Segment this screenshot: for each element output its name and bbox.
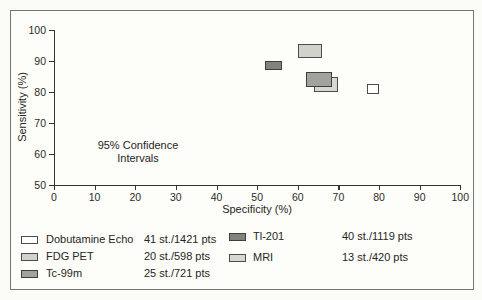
x-tick-label-40: 40: [211, 191, 223, 203]
legend-count-dobutamine-echo: 41 st./1421 pts: [144, 233, 216, 245]
legend-label-dobutamine-echo: Dobutamine Echo: [46, 233, 133, 245]
legend-label-tl-201: Tl-201: [253, 230, 284, 242]
plot-box-tl-201: [265, 61, 281, 70]
x-tick-label-20: 20: [129, 191, 141, 203]
y-axis-title: Sensitivity (%): [16, 72, 28, 142]
y-tick-100: [49, 30, 54, 31]
x-tick-label-50: 50: [251, 191, 263, 203]
legend-swatch-fdg-pet: [21, 253, 38, 261]
y-axis: [54, 30, 55, 186]
ci-annotation: 95% Confidence Intervals: [98, 139, 179, 165]
x-tick-label-90: 90: [414, 191, 426, 203]
legend-swatch-tl-201: [229, 233, 246, 241]
x-tick-100: [460, 185, 461, 190]
legend-swatch-dobutamine-echo: [21, 236, 38, 244]
y-tick-label-80: 80: [34, 86, 46, 98]
x-tick-label-80: 80: [373, 191, 385, 203]
legend-count-fdg-pet: 20 st./598 pts: [144, 250, 210, 262]
legend-swatch-mri: [229, 254, 246, 262]
figure-frame: 01020304050607080901005060708090100 95% …: [10, 10, 474, 290]
y-tick-50: [49, 185, 54, 186]
x-tick-80: [379, 185, 380, 190]
x-tick-70: [338, 185, 339, 190]
ci-annotation-line2: Intervals: [98, 152, 179, 165]
legend-label-mri: MRI: [253, 251, 273, 263]
legend-label-tc-99m: Tc-99m: [46, 267, 82, 279]
x-tick-label-0: 0: [51, 191, 57, 203]
y-tick-70: [49, 123, 54, 124]
x-tick-label-60: 60: [292, 191, 304, 203]
x-tick-60: [298, 185, 299, 190]
y-tick-label-100: 100: [28, 24, 46, 36]
plot-box-dobutamine-echo: [367, 84, 379, 94]
y-tick-90: [49, 61, 54, 62]
legend-label-fdg-pet: FDG PET: [46, 250, 94, 262]
plot-box-fdg-pet: [298, 44, 322, 58]
ci-annotation-line1: 95% Confidence: [98, 139, 179, 152]
x-tick-20: [135, 185, 136, 190]
y-tick-label-60: 60: [34, 148, 46, 160]
x-tick-label-30: 30: [170, 191, 182, 203]
y-tick-label-70: 70: [34, 117, 46, 129]
legend-swatch-tc-99m: [21, 270, 38, 278]
x-axis-title: Specificity (%): [222, 203, 292, 215]
y-tick-80: [49, 92, 54, 93]
y-tick-label-90: 90: [34, 55, 46, 67]
legend-count-mri: 13 st./420 pts: [342, 251, 408, 263]
x-tick-label-70: 70: [333, 191, 345, 203]
legend-count-tl-201: 40 st./1119 pts: [342, 230, 413, 242]
x-tick-40: [217, 185, 218, 190]
plot-box-tc-99m: [306, 72, 332, 88]
x-tick-10: [95, 185, 96, 190]
x-tick-30: [176, 185, 177, 190]
x-tick-0: [54, 185, 55, 190]
x-tick-label-100: 100: [452, 191, 470, 203]
y-tick-60: [49, 154, 54, 155]
legend-count-tc-99m: 25 st./721 pts: [144, 267, 210, 279]
x-tick-label-10: 10: [89, 191, 101, 203]
x-tick-50: [257, 185, 258, 190]
y-tick-label-50: 50: [34, 179, 46, 191]
x-tick-90: [420, 185, 421, 190]
